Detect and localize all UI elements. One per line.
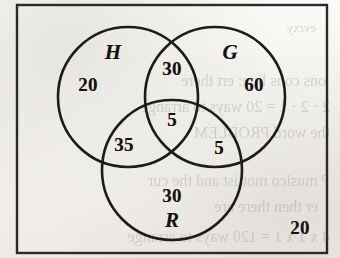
set-label-g: G	[222, 40, 237, 65]
region-value-HG-only: 30	[162, 58, 181, 80]
region-value-GR-only: 5	[214, 137, 224, 159]
region-value-R-only: 30	[162, 185, 181, 207]
set-label-h: H	[105, 40, 121, 65]
region-value-HGR: 5	[167, 109, 177, 131]
region-value-outside: 20	[290, 217, 309, 239]
region-value-H-only: 20	[78, 74, 97, 96]
region-value-HR-only: 35	[114, 134, 133, 156]
set-label-r: R	[165, 208, 179, 233]
region-value-G-only: 60	[244, 74, 263, 96]
venn-diagram-figure: evrxyons cons line: ert there2 · 2 · 1 =…	[0, 0, 340, 258]
